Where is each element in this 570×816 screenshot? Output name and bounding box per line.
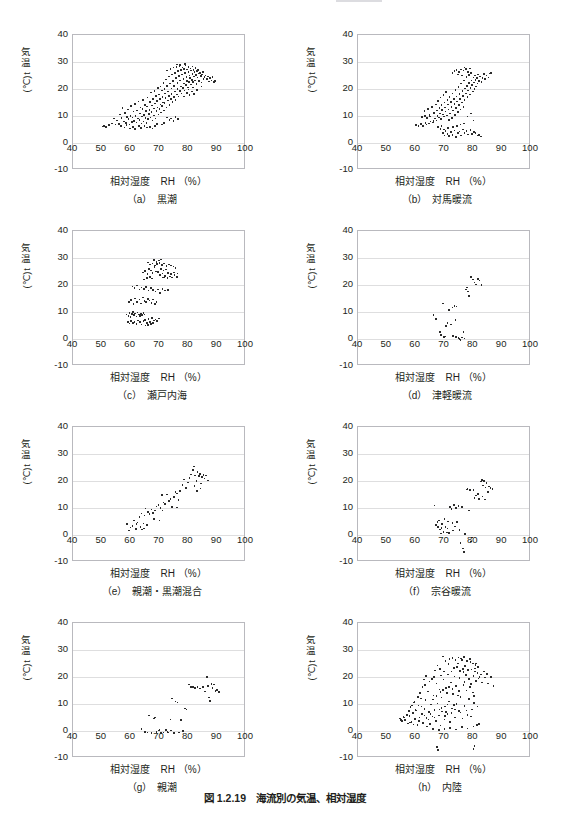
data-point [461,726,463,728]
data-point [440,675,442,677]
data-point [189,94,191,96]
x-tick-label: 80 [182,535,193,545]
data-point [153,108,155,110]
header-rule [336,0,382,2]
data-point [163,122,165,124]
data-point [437,521,439,523]
data-point [466,76,468,78]
data-point [185,487,187,489]
data-point [141,123,143,125]
data-point [146,524,148,526]
data-point [147,273,149,275]
data-point [152,272,154,274]
data-point [138,125,140,127]
y-tick-label: 30 [327,644,353,654]
data-point [164,503,166,505]
data-point [449,658,451,660]
data-point [461,102,463,104]
data-point [455,319,457,321]
data-point [442,303,444,305]
x-tick-label: 80 [182,339,193,349]
data-point [447,99,449,101]
data-point [164,102,166,104]
data-point [460,712,462,714]
data-point [173,85,175,87]
data-point [429,723,431,725]
data-point [178,75,180,77]
data-point [190,84,192,86]
data-point [176,507,178,509]
data-point [168,500,170,502]
data-point [452,93,454,95]
x-tick-label: 40 [67,339,78,349]
y-tick-label: 40 [327,421,353,431]
data-point [453,98,455,100]
x-tick-label: 50 [96,731,107,741]
data-point [455,659,457,661]
data-point [469,489,471,491]
x-tick-label: 40 [352,731,363,741]
data-point [445,91,447,93]
data-point [477,83,479,85]
data-point [157,87,159,89]
y-tick-label: 30 [327,56,353,66]
y-tick-label: 30 [42,448,68,458]
data-point [161,124,163,126]
y-tick-label: -10 [327,556,353,566]
data-point [146,277,148,279]
x-axis-ticks: 405060708090100 [357,143,530,157]
x-tick-label: 60 [124,731,135,741]
data-point [456,703,458,705]
y-tick-label: 10 [42,698,68,708]
data-point [448,663,450,665]
data-point [212,76,214,78]
data-point [458,86,460,88]
data-point [134,128,136,130]
y-axis-ticks: 403020100-10 [40,622,68,757]
data-point [177,702,179,704]
data-point [144,125,146,127]
data-point [142,99,144,101]
data-point [464,705,466,707]
data-point [141,513,143,515]
scatter-panel-e: 気温t(℃)403020100-10405060708090100相対湿度 RH… [0,408,285,604]
data-point [456,521,458,523]
y-axis-label: 気温t(℃) [18,242,34,286]
data-point [472,663,474,665]
data-point [157,271,159,273]
data-point [177,273,179,275]
data-point [466,710,468,712]
data-point [146,127,148,129]
data-point [423,679,425,681]
data-point [413,724,415,726]
data-point [430,704,432,706]
data-point [472,279,474,281]
data-point [120,125,122,127]
x-tick-label: 70 [153,731,164,741]
data-point [171,88,173,90]
data-point [463,331,465,333]
data-point [192,73,194,75]
data-point [162,277,164,279]
data-point [492,488,494,490]
data-point [135,115,137,117]
y-tick-label: 40 [42,29,68,39]
data-point [141,116,143,118]
data-point [463,551,465,553]
x-tick-label: 50 [381,535,392,545]
scatter-panel-g: 気温t(℃)403020100-10405060708090100相対湿度 RH… [0,604,285,800]
data-point [455,507,457,509]
data-point [165,269,167,271]
y-tick-label: 20 [42,83,68,93]
data-point [189,75,191,77]
data-point [195,74,197,76]
data-point [143,528,145,530]
data-point [434,717,436,719]
data-point [453,704,455,706]
x-tick-label: 100 [237,143,253,153]
data-point [470,716,472,718]
data-point [163,263,165,265]
x-tick-label: 90 [211,731,222,741]
data-point [451,708,453,710]
x-tick-label: 60 [124,143,135,153]
